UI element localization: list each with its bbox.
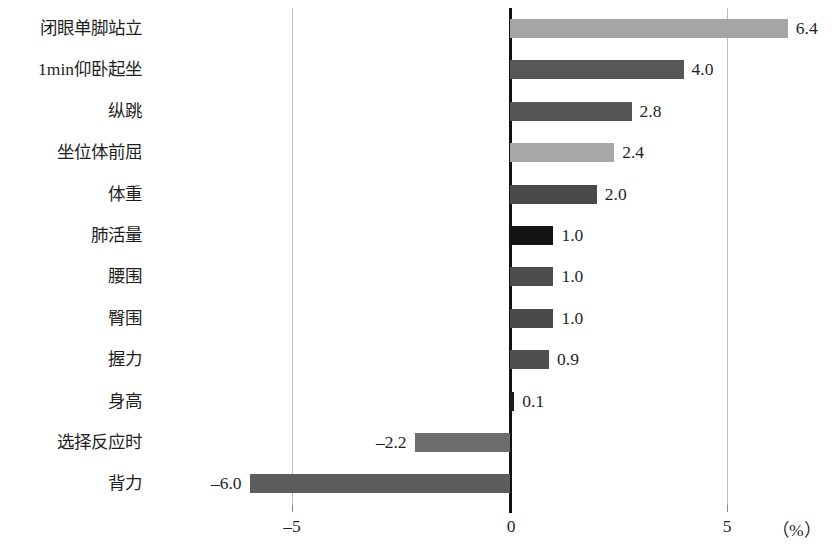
category-label: 臀围 (0, 298, 142, 339)
bar-row: 腰围1.0 (0, 256, 836, 297)
bar-row: 1min仰卧起坐4.0 (0, 49, 836, 90)
category-label: 背力 (0, 463, 142, 504)
axis-unit-label: （%） (772, 516, 821, 541)
tick-mark-plus5 (727, 505, 728, 512)
bar-value-label: 1.0 (561, 256, 583, 297)
bar (510, 60, 684, 79)
bar-value-label: –2.2 (376, 422, 407, 463)
bar (510, 309, 553, 328)
bar-value-label: 2.8 (640, 91, 662, 132)
bar-value-label: 0.1 (522, 381, 544, 422)
bar (250, 474, 510, 493)
xtick-label-zero: 0 (481, 516, 541, 537)
plot-area: 闭眼单脚站立6.41min仰卧起坐4.0纵跳2.8坐位体前屈2.4体重2.0肺活… (0, 0, 836, 547)
category-label: 闭眼单脚站立 (0, 8, 142, 49)
category-label: 握力 (0, 339, 142, 380)
xtick-label-minus5: –5 (262, 516, 322, 537)
bar-row: 坐位体前屈2.4 (0, 132, 836, 173)
bar (510, 350, 549, 369)
category-label: 1min仰卧起坐 (0, 49, 142, 90)
bar-row: 身高0.1 (0, 381, 836, 422)
category-label: 腰围 (0, 256, 142, 297)
category-label: 坐位体前屈 (0, 132, 142, 173)
bar (510, 19, 788, 38)
bar (510, 226, 553, 245)
category-label: 体重 (0, 174, 142, 215)
bar-chart: 闭眼单脚站立6.41min仰卧起坐4.0纵跳2.8坐位体前屈2.4体重2.0肺活… (0, 0, 836, 547)
bar-row: 背力–6.0 (0, 463, 836, 504)
category-label: 肺活量 (0, 215, 142, 256)
bar-row: 握力0.9 (0, 339, 836, 380)
bar (510, 102, 632, 121)
bar-row: 体重2.0 (0, 174, 836, 215)
bar (510, 143, 614, 162)
bar-row: 闭眼单脚站立6.4 (0, 8, 836, 49)
bar-value-label: 1.0 (561, 215, 583, 256)
bar (510, 392, 514, 411)
bar-row: 纵跳2.8 (0, 91, 836, 132)
tick-mark-minus5 (292, 505, 293, 512)
tick-mark-zero (509, 505, 512, 513)
bar-row: 肺活量1.0 (0, 215, 836, 256)
bar-row: 选择反应时–2.2 (0, 422, 836, 463)
bar-value-label: 1.0 (561, 298, 583, 339)
bar-value-label: 6.4 (796, 8, 818, 49)
category-label: 身高 (0, 381, 142, 422)
category-label: 选择反应时 (0, 422, 142, 463)
bar (415, 433, 510, 452)
bar (510, 267, 553, 286)
category-label: 纵跳 (0, 91, 142, 132)
bar-value-label: 4.0 (692, 49, 714, 90)
bar-value-label: 2.4 (622, 132, 644, 173)
bar-value-label: 2.0 (605, 174, 627, 215)
bar-value-label: –6.0 (211, 463, 242, 504)
bar-value-label: 0.9 (557, 339, 579, 380)
xtick-label-plus5: 5 (697, 516, 757, 537)
bar-row: 臀围1.0 (0, 298, 836, 339)
bar (510, 185, 597, 204)
